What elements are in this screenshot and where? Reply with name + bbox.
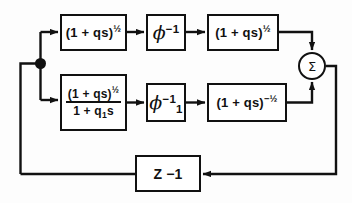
top-forward-gain-label: (1 + qs)½ bbox=[66, 26, 121, 39]
feedback-delay-block: Z −1 bbox=[135, 155, 201, 192]
top-output-gain-block: (1 + qs)½ bbox=[207, 14, 279, 51]
top-output-gain-label: (1 + qs)½ bbox=[215, 26, 270, 39]
phi-inverse-label: ϕ−1 bbox=[153, 23, 180, 42]
feedback-delay-label: Z −1 bbox=[153, 167, 182, 181]
phi-one-inverse-label: ϕ−11 bbox=[149, 93, 182, 112]
lower-output-gain-label: (1 + qs)−½ bbox=[216, 96, 277, 109]
branch-point bbox=[35, 58, 46, 69]
phi-one-inverse-block: ϕ−11 bbox=[146, 83, 186, 122]
wire-top-to-sum bbox=[279, 32, 312, 50]
summing-junction: Σ bbox=[298, 52, 326, 80]
lower-output-gain-block: (1 + qs)−½ bbox=[207, 83, 287, 122]
wire-bottom-to-sum bbox=[287, 82, 312, 103]
fraction-numerator: (1 + qs)½ bbox=[66, 88, 121, 103]
wire-feedback-to-branch bbox=[21, 64, 41, 175]
fraction-denominator: 1 + q1s bbox=[66, 103, 121, 117]
block-diagram: (1 + qs)½ ϕ−1 (1 + qs)½ (1 + qs)½ 1 + q1… bbox=[0, 0, 352, 203]
phi-inverse-block: ϕ−1 bbox=[146, 14, 186, 51]
lower-transfer-function-label: (1 + qs)½ 1 + q1s bbox=[66, 88, 121, 117]
lower-transfer-function-block: (1 + qs)½ 1 + q1s bbox=[60, 74, 127, 131]
top-forward-gain-block: (1 + qs)½ bbox=[60, 14, 127, 51]
sigma-symbol: Σ bbox=[308, 59, 316, 74]
